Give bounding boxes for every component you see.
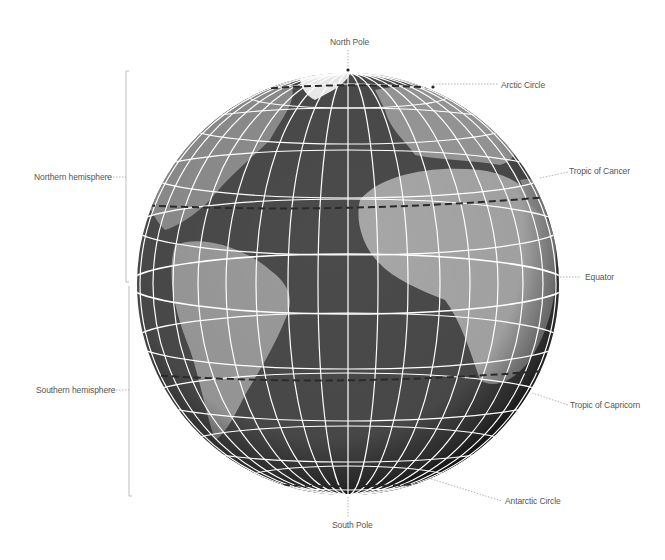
label-southern-hemisphere: Southern hemisphere	[36, 385, 115, 395]
north-pole-marker	[346, 68, 349, 71]
label-arctic-circle: Arctic Circle	[501, 80, 545, 90]
hemisphere-bracket	[126, 71, 132, 496]
label-north-pole: North Pole	[330, 37, 369, 47]
globe-diagram: North Pole Arctic Circle Tropic of Cance…	[0, 0, 665, 560]
label-tropic-of-capricorn: Tropic of Capricorn	[570, 400, 640, 410]
label-northern-hemisphere: Northern hemisphere	[34, 172, 112, 182]
label-antarctic-circle: Antarctic Circle	[505, 496, 561, 506]
globe-graphic	[0, 0, 665, 560]
arctic-marker	[431, 85, 434, 88]
label-equator: Equator	[585, 272, 614, 282]
label-south-pole: South Pole	[332, 520, 373, 530]
label-tropic-of-cancer: Tropic of Cancer	[569, 166, 630, 176]
